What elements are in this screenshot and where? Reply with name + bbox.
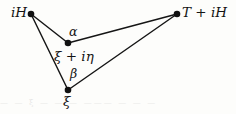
figure-canvas: iH T + iH ξ + iη ξ α β — — ξ — — — ——— —…	[0, 0, 236, 114]
edge-xi-ieta-to-tih	[68, 14, 177, 43]
vertex-label-ih: iH	[11, 6, 27, 20]
vertex-label-xi: ξ	[63, 95, 70, 109]
vertex-dot-xi-ieta	[65, 40, 72, 47]
vertex-label-xi-plus-i-eta: ξ + iη	[54, 50, 94, 64]
vertex-dot-tih	[174, 11, 181, 18]
angle-label-alpha: α	[69, 26, 77, 39]
vertex-label-t-plus-ih: T + iH	[182, 6, 227, 20]
vertex-dot-group	[28, 11, 181, 94]
vertex-dot-ih	[28, 11, 35, 18]
edge-group	[31, 14, 177, 90]
edge-ih-to-xi-ieta	[31, 14, 68, 43]
angle-label-beta: β	[70, 68, 77, 81]
